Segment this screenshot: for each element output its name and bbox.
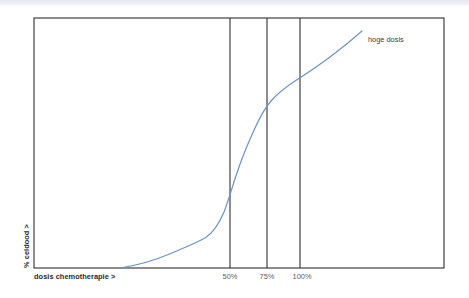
xtick-label-75: 75% <box>260 272 275 281</box>
plot-area-background <box>34 18 444 268</box>
annotation-hoge-dosis: hoge dosis <box>368 35 404 44</box>
xtick-label-100: 100% <box>293 272 312 281</box>
chart-svg: 50% 75% 100% dosis chemotherapie > % cel… <box>0 0 469 298</box>
y-axis-label: % celdood > <box>22 223 31 268</box>
chart-canvas: 50% 75% 100% dosis chemotherapie > % cel… <box>0 0 469 298</box>
x-axis-label: dosis chemotherapie > <box>34 272 116 281</box>
chart-figure: 50% 75% 100% dosis chemotherapie > % cel… <box>0 0 469 298</box>
xtick-label-50: 50% <box>223 272 238 281</box>
